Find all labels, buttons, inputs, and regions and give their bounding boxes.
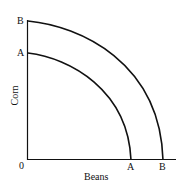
curve-b xyxy=(28,21,163,160)
ppf-diagram xyxy=(0,0,185,187)
y-axis-label: Corn xyxy=(9,86,20,106)
x-intercept-label-a: A xyxy=(127,162,134,172)
x-axis-label: Beans xyxy=(84,172,108,182)
y-intercept-label-b: B xyxy=(17,16,24,26)
x-intercept-label-b: B xyxy=(159,162,166,172)
origin-label: 0 xyxy=(19,161,24,171)
y-intercept-label-a: A xyxy=(17,48,24,58)
curve-a xyxy=(28,53,131,160)
